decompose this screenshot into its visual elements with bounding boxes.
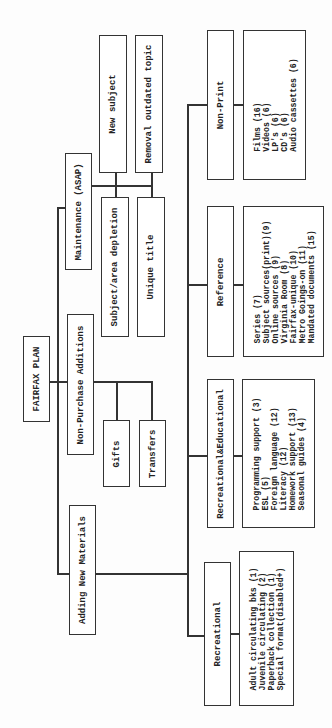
- connector: [116, 381, 118, 420]
- list-item: Virginia Room (8): [279, 220, 288, 343]
- list-item: Homework support (13): [288, 397, 297, 510]
- connector: [234, 284, 243, 286]
- connector: [57, 207, 59, 574]
- rec-educational-items: Programming support (3) ESL (5) Foreign …: [242, 379, 315, 528]
- list-item: Films (16): [252, 58, 261, 151]
- new-subject-node: New subject: [99, 35, 127, 173]
- list-item: Mandated documents (15): [306, 220, 315, 343]
- maintenance-label: Maintenance (ASAP): [74, 163, 84, 260]
- list-item: Adult circulating bks (1): [249, 567, 258, 690]
- list-item: Seasonal guides (4): [297, 397, 306, 510]
- connector: [151, 381, 153, 420]
- list-item: Paperback collection (1): [267, 567, 276, 690]
- root-title: FAIRFAX PLAN: [32, 347, 42, 412]
- non-purchase-node: Non-Purchase Additions: [67, 314, 94, 455]
- item-list: Adult circulating bks (1) Juvenile circu…: [249, 567, 285, 690]
- connector: [94, 381, 152, 383]
- connector: [115, 173, 117, 197]
- node-label: Non-Purchase Additions: [76, 325, 86, 444]
- list-item: Audio cassettes (6): [288, 58, 297, 151]
- node-label: Unique title: [146, 235, 156, 300]
- recreational-node: Recreational: [204, 562, 231, 706]
- list-item: LP's (6): [270, 58, 279, 151]
- connector: [151, 173, 153, 197]
- non-print-node: Non-Print: [207, 30, 234, 180]
- list-item: Fairfax-unique (10): [288, 220, 297, 343]
- reference-items: Series (7) Subject sources(print)(9) Onl…: [243, 206, 324, 357]
- list-item: CD's (6): [279, 58, 288, 151]
- reference-node: Reference: [207, 206, 234, 357]
- removal-outdated-node: Removal outdated topic: [135, 35, 163, 173]
- node-label: Subject/area depletion: [110, 208, 120, 327]
- node-label: Removal outdated topic: [144, 45, 154, 164]
- node-label: Non-Print: [216, 81, 226, 130]
- transfers-node: Transfers: [139, 420, 166, 487]
- connector: [187, 104, 189, 636]
- connector: [231, 633, 239, 635]
- list-item: Foreign language (12): [270, 397, 279, 510]
- list-item: Juvenile circulating (2): [258, 567, 267, 690]
- node-label: Reference: [216, 257, 226, 306]
- connector: [234, 455, 242, 457]
- list-item: Series (7): [252, 220, 261, 343]
- list-item: Programming support (3): [252, 397, 261, 510]
- connector: [234, 104, 243, 106]
- gifts-node: Gifts: [103, 420, 130, 487]
- rec-educational-node: Recreational&Educational: [207, 379, 234, 528]
- item-list: Programming support (3) ESL (5) Foreign …: [252, 397, 306, 510]
- list-item: Special format(disabled+): [276, 567, 285, 690]
- connector: [187, 455, 207, 457]
- root-node: FAIRFAX PLAN: [23, 336, 50, 422]
- node-label: Adding New Materials: [78, 516, 88, 624]
- item-list: Series (7) Subject sources(print)(9) Onl…: [252, 220, 315, 343]
- list-item: Literacy (12): [279, 397, 288, 510]
- unique-title-node: Unique title: [137, 197, 165, 337]
- non-print-items: Films (16) Videos (6) LP's (6) CD's (6) …: [243, 30, 306, 180]
- connector: [92, 185, 152, 187]
- org-chart: FAIRFAX PLAN Maintenance (ASAP) New subj…: [0, 0, 332, 728]
- list-item: Online sources (9): [270, 220, 279, 343]
- recreational-items: Adult circulating bks (1) Juvenile circu…: [239, 551, 294, 706]
- connector: [50, 381, 67, 383]
- connector: [187, 635, 204, 637]
- list-item: Metro Goings-on (11): [297, 220, 306, 343]
- node-label: Transfers: [148, 429, 158, 478]
- node-label: Recreational&Educational: [216, 389, 226, 519]
- subject-depletion-node: Subject/area depletion: [101, 197, 129, 337]
- node-label: New subject: [108, 74, 118, 133]
- list-item: Subject sources(print)(9): [261, 220, 270, 343]
- maintenance-node: Maintenance (ASAP): [65, 153, 92, 270]
- list-item: ESL (5): [261, 397, 270, 510]
- connector: [187, 284, 207, 286]
- connector: [187, 104, 207, 106]
- node-label: Gifts: [112, 440, 122, 467]
- adding-new-node: Adding New Materials: [69, 505, 96, 635]
- list-item: Videos (6): [261, 58, 270, 151]
- item-list: Films (16) Videos (6) LP's (6) CD's (6) …: [252, 58, 297, 151]
- node-label: Recreational: [213, 602, 223, 667]
